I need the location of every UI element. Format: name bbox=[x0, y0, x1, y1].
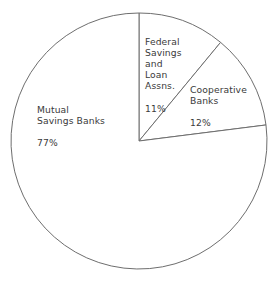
slice-label-mutual-name: Mutual Savings Banks bbox=[37, 104, 129, 126]
slice-label-cooperative-value: 12% bbox=[190, 117, 252, 128]
slice-label-federal-name: Federal Savings and Loan Assns. bbox=[145, 36, 193, 91]
slice-label-cooperative-name: Cooperative Banks bbox=[190, 84, 252, 106]
slice-label-federal-savings-and-loan-assns: Federal Savings and Loan Assns. 11% bbox=[145, 25, 193, 125]
slice-label-mutual-savings-banks: Mutual Savings Banks 77% bbox=[37, 93, 129, 160]
slice-label-federal-value: 11% bbox=[145, 103, 193, 114]
slice-label-cooperative-banks: Cooperative Banks 12% bbox=[190, 73, 252, 140]
pie-chart: Federal Savings and Loan Assns. 11% Coop… bbox=[0, 0, 276, 283]
slice-label-mutual-value: 77% bbox=[37, 137, 129, 148]
